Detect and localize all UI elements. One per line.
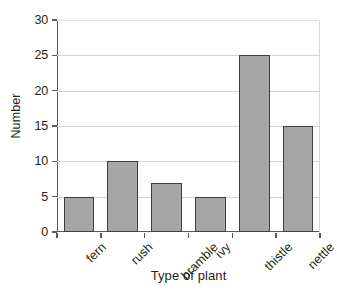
y-tick-label: 0 [8, 226, 48, 239]
x-tick-mark [56, 233, 57, 238]
bar [283, 126, 314, 232]
x-axis-title: Type of plant [57, 268, 320, 283]
x-tick-mark [319, 233, 320, 238]
y-tick-label: 10 [8, 155, 48, 168]
x-tick-label: rush [128, 240, 155, 267]
bar [64, 197, 95, 232]
x-tick-mark [232, 233, 233, 238]
x-tick-mark [100, 233, 101, 238]
x-tick-mark [275, 233, 276, 238]
x-tick-label: fern [83, 240, 108, 265]
bar [239, 55, 270, 232]
y-tick-label: 5 [8, 190, 48, 203]
bar [151, 183, 182, 232]
y-tick-label: 30 [8, 14, 48, 27]
x-tick-label: ivy [213, 240, 234, 261]
x-tick-mark [144, 233, 145, 238]
y-tick-label: 25 [8, 49, 48, 62]
y-tick-label: 15 [8, 120, 48, 133]
bar [107, 161, 138, 232]
y-tick-label: 20 [8, 84, 48, 97]
x-tick-mark [188, 233, 189, 238]
bars-group [57, 20, 320, 232]
bar [195, 197, 226, 232]
